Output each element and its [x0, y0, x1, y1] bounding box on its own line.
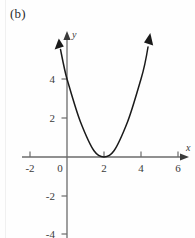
- y-axis-arrowhead: [63, 31, 70, 40]
- x-axis-arrowhead: [180, 153, 189, 160]
- y-axis-label: y: [71, 29, 77, 40]
- x-tick-label-6: 6: [175, 162, 181, 174]
- y-tick-label-4: 4: [50, 73, 56, 85]
- parabola-plot: -2 0 2 4 6 4 2 -2 -4 x y: [0, 0, 195, 238]
- y-tick-label-2: 2: [50, 112, 56, 124]
- x-axis-label: x: [185, 142, 191, 153]
- x-tick-label-0: 0: [57, 162, 63, 174]
- x-tick-label-2: 2: [101, 162, 107, 174]
- curve-right-arrowhead: [144, 33, 153, 45]
- x-tick-label-4: 4: [138, 162, 144, 174]
- curve-left-arrowhead: [55, 39, 64, 50]
- y-tick-label-neg4: -4: [46, 228, 56, 238]
- parabola-curve: [61, 47, 149, 157]
- y-tick-label-neg2: -2: [46, 190, 55, 202]
- figure-panel: (b) -2 0 2 4 6 4 2 -2 -4 x y: [0, 0, 195, 238]
- x-tick-label-neg2: -2: [25, 162, 34, 174]
